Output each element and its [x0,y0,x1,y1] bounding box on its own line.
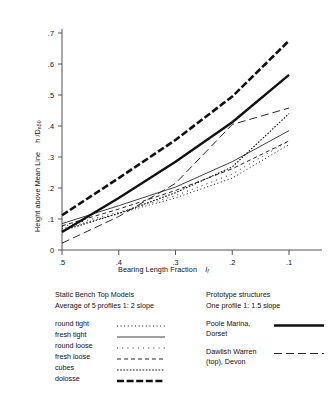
legend-item-label: fresh tight [55,330,87,339]
legend-item: Poole Marina,Dorset [206,319,331,339]
legend-item-swatch [117,335,165,339]
y-axis-ticks [58,33,62,250]
y-axis-title-subscript: n50 [36,120,42,129]
series-line [62,141,289,227]
x-axis-title-subscript: f [207,268,209,274]
figure-root: 0.1.2.3.4.5.6.7 .5.4.3.2.1 Height above … [0,0,331,406]
x-axis-title: Bearing Length Fraction If [118,265,209,274]
legend-column-prototypes: Prototype structures One profile 1: 1.5 … [206,290,331,375]
legend-item-swatch [117,379,165,383]
x-axis-ticks [62,250,289,255]
y-tick-label: .6 [48,60,54,69]
legend-item-label: round tight [55,319,89,328]
y-tick-label: .2 [48,184,54,193]
y-axis-title-symbol: h /D [33,129,42,143]
chart-plot-area: 0.1.2.3.4.5.6.7 .5.4.3.2.1 Height above … [0,0,331,290]
legend-left-heading: Static Bench Top Models [55,290,215,299]
legend-item: round tight [55,319,215,330]
x-tick-label: .2 [229,258,235,267]
axes [62,29,322,250]
legend-item-swatch [274,351,324,355]
legend-item: fresh tight [55,330,215,341]
x-axis-title-main: Bearing Length Fraction [118,265,197,274]
legend-left-items: round tightfresh tightround loosefresh l… [55,319,215,385]
y-axis-tick-labels: 0.1.2.3.4.5.6.7 [48,29,54,255]
legend-column-models: Static Bench Top Models Average of 5 pro… [55,290,215,385]
legend-item-swatch [117,346,165,350]
legend-item-swatch [117,368,165,372]
y-tick-label: .7 [48,29,54,38]
chart-series-group [62,41,289,243]
legend-item-label: cubes [55,363,74,372]
legend-right-heading: Prototype structures [206,290,331,299]
legend-item-label-line2: (top), Devon [206,357,331,367]
x-tick-label: .1 [286,258,292,267]
chart-svg: 0.1.2.3.4.5.6.7 .5.4.3.2.1 [0,0,331,290]
x-tick-label: .5 [59,258,65,267]
legend-item: Dawlish Warren(top), Devon [206,347,331,367]
series-line [62,131,289,224]
legend-item-label: round loose [55,341,93,350]
legend-item-label-line2: Dorset [206,329,331,339]
legend-item: cubes [55,363,215,374]
legend-item: dolosse [55,374,215,385]
y-tick-label: 0 [50,246,54,255]
legend-right-subheading: One profile 1: 1.5 slope [206,301,331,310]
series-line [62,108,289,243]
y-tick-label: .1 [48,215,54,224]
legend-item-swatch [117,357,165,361]
legend-item: fresh loose [55,352,215,363]
y-tick-label: .4 [48,122,54,131]
legend-left-subheading: Average of 5 profiles 1: 2 slope [55,301,215,310]
legend-item-label: dolosse [55,374,80,383]
legend-right-items: Poole Marina,DorsetDawlish Warren(top), … [206,319,331,367]
legend-item-label: fresh loose [55,352,90,361]
y-tick-label: .3 [48,153,54,162]
y-axis-title-main: Height above Mean Line [33,152,42,232]
legend: Static Bench Top Models Average of 5 pro… [0,290,331,406]
legend-item-swatch [274,323,324,327]
series-line [62,41,289,216]
legend-item: round loose [55,341,215,352]
legend-item-swatch [117,324,165,328]
y-axis-title: Height above Mean Line h /Dn50 [33,120,42,232]
series-line [62,75,289,232]
y-tick-label: .5 [48,91,54,100]
